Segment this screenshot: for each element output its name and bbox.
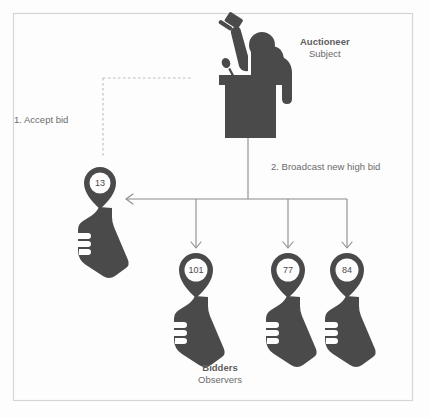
- bidder-3-value: 84: [332, 265, 362, 275]
- podium-top: [219, 75, 282, 85]
- observer-pattern-diagram: 13 101 77 84 Auctioneer Subject 1. Accep…: [0, 0, 430, 418]
- diagram-canvas: [0, 0, 430, 418]
- hand-fingers-13: [78, 233, 91, 255]
- hand-fingers-77: [266, 322, 279, 344]
- podium-body: [225, 85, 276, 138]
- auctioneer-caption: Auctioneer Subject: [300, 36, 350, 60]
- bidder-accepting-value: 13: [85, 178, 115, 188]
- hand-fingers-84: [325, 322, 338, 344]
- bidders-caption: Bidders Observers: [165, 362, 275, 386]
- bidders-role: Observers: [165, 374, 275, 386]
- step-2-label: 2. Broadcast new high bid: [271, 161, 380, 173]
- step-1-label: 1. Accept bid: [14, 114, 68, 126]
- hand-fingers-101: [174, 322, 187, 344]
- auctioneer-role: Subject: [300, 48, 350, 60]
- bidder-2-value: 77: [273, 265, 303, 275]
- auctioneer-title: Auctioneer: [300, 36, 350, 48]
- auctioneer-head: [249, 32, 275, 58]
- bidder-1-value: 101: [181, 265, 211, 275]
- bidders-title: Bidders: [165, 362, 275, 374]
